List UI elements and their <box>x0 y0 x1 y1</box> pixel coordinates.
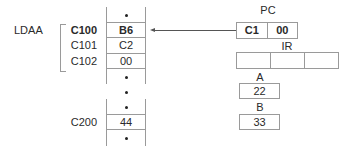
b-label: B <box>248 101 272 113</box>
address-label-c102: C102 <box>53 54 97 69</box>
memory-cell-c101: C2 <box>106 38 146 54</box>
arrow-left-icon <box>150 28 155 32</box>
pc-pointer-arrow-line <box>154 30 236 31</box>
address-label-c200: C200 <box>53 115 97 130</box>
pc-register: C1 00 <box>236 22 298 39</box>
pc-label: PC <box>256 4 280 16</box>
instruction-mnemonic: LDAA <box>14 24 43 36</box>
address-label-c100: C100 <box>53 23 97 38</box>
memory-cell-c100: B6 <box>106 23 146 38</box>
ellipsis-dot-icon <box>125 14 128 17</box>
a-register: 22 <box>239 83 280 99</box>
memory-cell-ellipsis-top <box>106 7 146 23</box>
memory-cell-c200: 44 <box>106 115 146 130</box>
address-label-c101: C101 <box>53 38 97 53</box>
memory-cell-c102: 00 <box>106 54 146 69</box>
ir-label: IR <box>275 40 299 52</box>
ellipsis-dot-icon <box>125 106 128 109</box>
b-register: 33 <box>239 114 280 130</box>
ir-part-2 <box>270 53 304 68</box>
pc-high-byte: C1 <box>237 23 267 38</box>
memory-gap-ellipsis <box>106 84 146 99</box>
ir-part-1 <box>237 53 270 68</box>
a-label: A <box>248 71 272 83</box>
ellipsis-dot-icon <box>125 137 128 140</box>
ir-part-3 <box>304 53 338 68</box>
pc-low-byte: 00 <box>267 23 298 38</box>
ir-register <box>236 52 339 69</box>
b-value: 33 <box>240 115 279 129</box>
a-value: 22 <box>240 84 279 98</box>
ellipsis-dot-icon <box>125 91 128 94</box>
memory-cell-ellipsis-after-c102 <box>106 69 146 84</box>
memory-cell-ellipsis-bottom <box>106 130 146 146</box>
ellipsis-dot-icon <box>125 76 128 79</box>
memory-cell-ellipsis-before-c200 <box>106 99 146 115</box>
